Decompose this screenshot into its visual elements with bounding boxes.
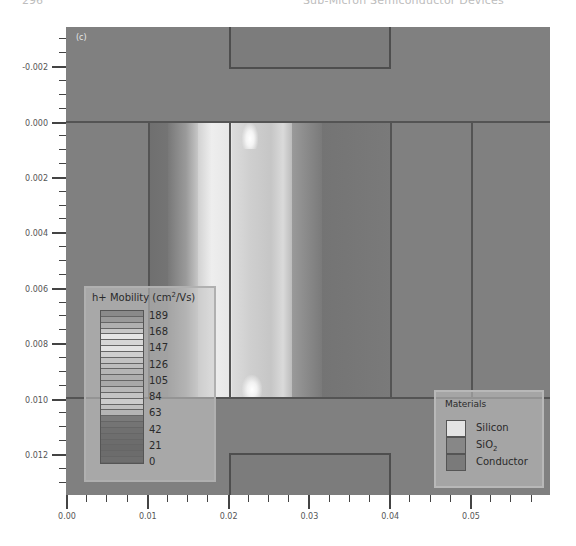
colorbar-stripe: [101, 457, 143, 463]
x-minor-tick: [349, 495, 350, 502]
y-minor-tick: [59, 149, 66, 150]
y-axis: -0.0020.0000.0020.0040.0060.0080.0100.01…: [0, 27, 66, 495]
mobility-hotspot-bottom: [242, 375, 262, 399]
colorbar-tick-label: 21: [149, 439, 162, 450]
silicon-swatch: [446, 420, 466, 437]
x-minor-tick: [106, 495, 107, 502]
x-minor-tick: [248, 495, 249, 502]
y-major-tick: [52, 399, 66, 401]
x-major-tick: [66, 495, 68, 509]
conductor-label: Conductor: [476, 456, 528, 467]
x-minor-tick: [288, 495, 289, 502]
materials-legend-title: Materials: [445, 399, 486, 409]
x-major-tick: [228, 495, 230, 509]
boundary-x-0.04: [390, 122, 392, 398]
colorbar-tick-label: 0: [149, 456, 155, 467]
y-minor-tick: [59, 468, 66, 469]
colorbar-tick-label: 105: [149, 374, 168, 385]
colorbar-title: h+ Mobility (cm2/Vs): [92, 291, 195, 303]
x-minor-tick: [369, 495, 370, 502]
x-tick-label: 0.05: [462, 512, 480, 521]
y-tick-label: 0.006: [25, 284, 48, 293]
colorbar-tick-label: 168: [149, 326, 168, 337]
x-major-tick: [389, 495, 391, 509]
y-minor-tick: [59, 260, 66, 261]
y-minor-tick: [59, 357, 66, 358]
panel-label: (c): [76, 33, 87, 42]
silicon-channel-center: [232, 122, 292, 398]
y-tick-label: 0.008: [25, 340, 48, 349]
y-tick-label: 0.004: [25, 229, 48, 238]
y-minor-tick: [59, 440, 66, 441]
x-minor-tick: [430, 495, 431, 502]
y-major-tick: [52, 454, 66, 456]
colorbar-swatch: [100, 310, 144, 464]
top-gate-conductor: [229, 27, 391, 69]
y-major-tick: [52, 122, 66, 124]
y-major-tick: [52, 288, 66, 290]
boundary-x-0.02: [229, 122, 231, 398]
y-tick-label: 0.012: [25, 450, 48, 459]
y-minor-tick: [59, 412, 66, 413]
mobility-colorbar-legend: h+ Mobility (cm2/Vs) 1891681471261058463…: [84, 286, 216, 482]
x-minor-tick: [409, 495, 410, 502]
oxide-interface-top: [66, 121, 550, 123]
y-minor-tick: [59, 191, 66, 192]
y-tick-label: 0.010: [25, 395, 48, 404]
y-minor-tick: [59, 482, 66, 483]
page-number: 296: [22, 0, 43, 7]
y-minor-tick: [59, 38, 66, 39]
x-minor-tick: [207, 495, 208, 502]
conductor-swatch: [446, 454, 466, 471]
x-minor-tick: [531, 495, 532, 502]
y-minor-tick: [59, 274, 66, 275]
y-minor-tick: [59, 52, 66, 53]
x-tick-label: 0.03: [300, 512, 318, 521]
y-minor-tick: [59, 135, 66, 136]
x-axis: 0.000.010.020.030.040.05: [66, 495, 550, 525]
y-minor-tick: [59, 108, 66, 109]
x-tick-label: 0.00: [58, 512, 76, 521]
y-major-tick: [52, 343, 66, 345]
colorbar-tick-label: 42: [149, 423, 162, 434]
sio2-label: SiO2: [476, 439, 497, 453]
y-minor-tick: [59, 94, 66, 95]
y-minor-tick: [59, 205, 66, 206]
x-minor-tick: [86, 495, 87, 502]
x-major-tick: [308, 495, 310, 509]
silicon-channel-mid-right: [292, 122, 322, 398]
x-major-tick: [470, 495, 472, 509]
x-minor-tick: [187, 495, 188, 502]
x-minor-tick: [490, 495, 491, 502]
y-minor-tick: [59, 329, 66, 330]
boundary-x-0.05: [471, 122, 473, 398]
sio2-swatch: [446, 437, 466, 454]
colorbar-tick-label: 126: [149, 358, 168, 369]
colorbar-tick-label: 147: [149, 342, 168, 353]
y-minor-tick: [59, 315, 66, 316]
bottom-gate-conductor: [229, 453, 391, 495]
x-minor-tick: [127, 495, 128, 502]
colorbar-tick-label: 84: [149, 391, 162, 402]
colorbar-tick-label: 189: [149, 310, 168, 321]
silicon-label: Silicon: [476, 422, 509, 433]
y-tick-label: 0.002: [25, 173, 48, 182]
x-minor-tick: [268, 495, 269, 502]
y-tick-label: 0.000: [25, 118, 48, 127]
y-major-tick: [52, 66, 66, 68]
y-major-tick: [52, 232, 66, 234]
x-tick-label: 0.02: [220, 512, 238, 521]
x-tick-label: 0.04: [381, 512, 399, 521]
y-tick-label: -0.002: [22, 63, 48, 72]
materials-legend: Materials Silicon SiO2 Conductor: [434, 390, 544, 488]
x-minor-tick: [450, 495, 451, 502]
x-major-tick: [147, 495, 149, 509]
y-minor-tick: [59, 426, 66, 427]
mobility-hotspot-top: [242, 123, 258, 149]
y-minor-tick: [59, 371, 66, 372]
y-minor-tick: [59, 218, 66, 219]
x-tick-label: 0.01: [139, 512, 157, 521]
y-minor-tick: [59, 163, 66, 164]
running-title: Sub-Micron Semiconductor Devices: [303, 0, 504, 7]
x-minor-tick: [329, 495, 330, 502]
